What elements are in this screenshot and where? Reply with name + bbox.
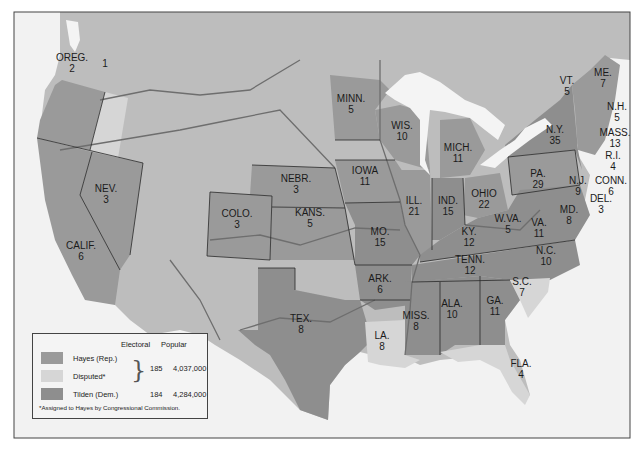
state-label: MASS.13 [599,127,630,149]
state-label: FLA.4 [510,358,531,380]
state-electoral-votes: 10 [441,309,463,320]
legend-footnote: *Assigned to Hayes by Congressional Comm… [39,404,180,411]
state-abbr: IND. [438,195,458,206]
state-abbr: WIS. [391,120,413,131]
state-electoral-votes: 11 [531,228,546,239]
state-label: MISS.8 [402,310,429,332]
state-abbr: MO. [371,226,390,237]
state-electoral-votes: 12 [455,265,485,276]
state-electoral-votes: 13 [599,138,630,149]
state-electoral-votes: 12 [462,237,477,248]
state-electoral-votes: 29 [530,179,545,190]
hayes-popular: 4,037,000 [173,364,206,373]
state-label: 1 [102,58,108,69]
state-abbr: GA. [486,295,503,306]
legend-swatch-tilden [41,388,63,400]
state-abbr: MICH. [444,142,472,153]
state-abbr: VT. [560,75,574,86]
state-electoral-votes: 5 [607,112,627,123]
state-label: OREG.2 [56,52,88,74]
state-label: MD.8 [560,204,578,226]
state-electoral-votes: 8 [402,321,429,332]
state-label: IOWA11 [352,165,378,187]
state-label: KY.12 [462,226,477,248]
state-label: ARK.6 [368,273,391,295]
state-label: MO.15 [371,226,390,248]
state-electoral-votes: 3 [221,219,252,230]
state-electoral-votes: 15 [371,237,390,248]
state-electoral-votes: 6 [595,186,627,197]
state-electoral-votes: 7 [594,78,612,89]
state-electoral-votes: 11 [352,176,378,187]
state-electoral-votes: 3 [95,194,117,205]
state-electoral-votes: 8 [374,341,389,352]
state-label: KANS.5 [295,207,325,229]
hayes-electoral: 185 [150,364,163,373]
legend-label-hayes: Hayes (Rep.) [73,354,117,363]
state-abbr: NEBR. [281,173,312,184]
state-label: VT.5 [560,75,574,97]
state-abbr: ARK. [368,273,391,284]
state-electoral-votes: 10 [536,256,556,267]
state-abbr: NEV. [95,183,117,194]
state-abbr: COLO. [221,208,252,219]
state-label: ILL.21 [406,195,423,217]
state-label: W.VA.5 [494,213,521,235]
state-abbr: MINN. [337,93,365,104]
legend: Electoral Popular Hayes (Rep.) Disputed*… [32,333,208,419]
state-abbr: CALIF. [66,240,96,251]
state-abbr: ILL. [406,195,423,206]
legend-swatch-disputed [41,370,63,382]
state-label: TEX.8 [290,313,312,335]
state-label: MICH.11 [444,142,472,164]
state-label: TENN.12 [455,254,485,276]
state-label: MINN.5 [337,93,365,115]
state-label: WIS.10 [391,120,413,142]
state-label: GA.11 [486,295,503,317]
state-abbr: KY. [462,226,477,237]
state-abbr: N.Y. [546,124,564,135]
state-label: N.C.10 [536,245,556,267]
state-electoral-votes: 1 [102,58,108,69]
state-abbr: W.VA. [494,213,521,224]
state-abbr: N.H. [607,101,627,112]
state-abbr: ME. [594,67,612,78]
legend-label-disputed: Disputed* [73,372,106,381]
state-electoral-votes: 11 [444,153,472,164]
state-label: CALIF.6 [66,240,96,262]
state-electoral-votes: 4 [510,369,531,380]
state-label: ME.7 [594,67,612,89]
state-label: LA.8 [374,330,389,352]
state-abbr: PA. [530,168,545,179]
state-label: PA.29 [530,168,545,190]
state-abbr: TENN. [455,254,485,265]
state-electoral-votes: 6 [368,284,391,295]
state-label: NEBR.3 [281,173,312,195]
legend-label-tilden: Tilden (Dem.) [73,390,118,399]
state-abbr: TEX. [290,313,312,324]
state-abbr: R.I. [605,150,621,161]
state-abbr: ALA. [441,298,463,309]
state-electoral-votes: 6 [66,251,96,262]
state-electoral-votes: 21 [406,206,423,217]
state-electoral-votes: 5 [337,104,365,115]
state-electoral-votes: 35 [546,135,564,146]
state-electoral-votes: 4 [605,161,621,172]
legend-brace: } [131,358,146,382]
state-label: N.Y.35 [546,124,564,146]
state-electoral-votes: 8 [560,215,578,226]
state-label: NEV.3 [95,183,117,205]
state-label: OHIO22 [471,188,497,210]
state-label: ALA.10 [441,298,463,320]
tilden-electoral: 184 [150,390,163,399]
state-abbr: OREG. [56,52,88,63]
state-abbr: MD. [560,204,578,215]
tilden-popular: 4,284,000 [173,390,206,399]
state-electoral-votes: 9 [569,186,587,197]
state-electoral-votes: 3 [590,204,612,215]
state-electoral-votes: 5 [560,86,574,97]
state-electoral-votes: 22 [471,199,497,210]
state-abbr: OHIO [471,188,497,199]
state-abbr: S.C. [512,276,531,287]
state-abbr: IOWA [352,165,378,176]
